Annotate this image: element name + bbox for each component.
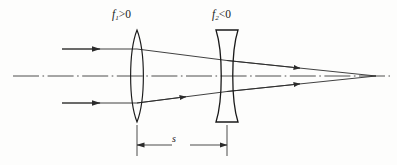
intermediate-ray-lower-arrow — [137, 97, 186, 103]
separation-label: s — [172, 134, 176, 144]
f1-subscript: 1 — [115, 14, 119, 22]
outgoing-ray-lower-arrow — [227, 84, 300, 92]
f1-relation: >0 — [119, 8, 131, 20]
optics-ray-diagram: f1>0 f2<0 s — [0, 0, 397, 165]
outgoing-ray-upper-arrow — [227, 61, 300, 69]
separation-symbol: s — [172, 133, 176, 144]
f2-subscript: 2 — [215, 14, 219, 22]
intermediate-ray-upper — [137, 49, 227, 61]
converging-lens-label: f1>0 — [112, 9, 131, 21]
diagram-canvas — [0, 0, 397, 165]
f2-relation: <0 — [219, 8, 231, 20]
separation-dimension — [137, 125, 227, 156]
diverging-lens-label: f2<0 — [212, 9, 231, 21]
